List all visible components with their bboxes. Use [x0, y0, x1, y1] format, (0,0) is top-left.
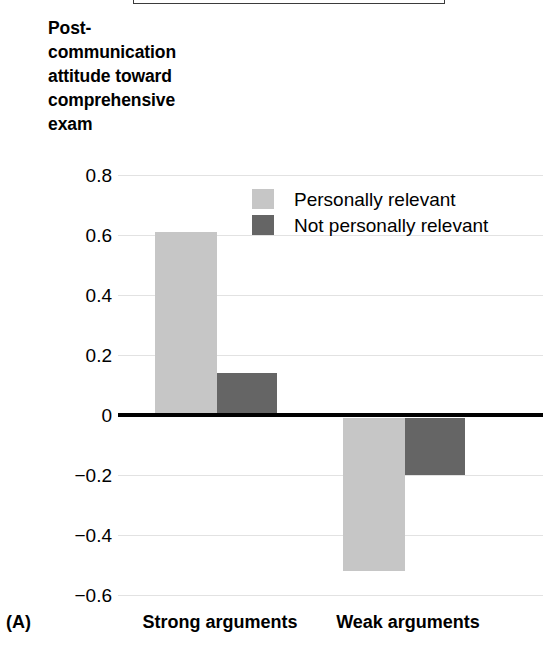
- ytick-label-neg0.4: −0.4: [38, 526, 112, 545]
- legend-item-personally-relevant: Personally relevant: [252, 186, 488, 212]
- legend-label-personally-relevant: Personally relevant: [294, 189, 456, 210]
- ytick-label-0.8: 0.8: [38, 166, 112, 185]
- bar-weak-personally-relevant: [343, 418, 405, 571]
- bar-strong-not-personally-relevant: [217, 373, 277, 415]
- ytick-label-0.2: 0.2: [38, 346, 112, 365]
- chart-legend: Personally relevant Not personally relev…: [252, 186, 488, 238]
- legend-swatch-dark-icon: [252, 215, 274, 235]
- legend-swatch-light-icon: [252, 189, 274, 209]
- ytick-label-0.6: 0.6: [38, 226, 112, 245]
- gridline-neg0.6: [118, 595, 543, 596]
- xaxis-label-weak-arguments: Weak arguments: [318, 612, 498, 633]
- ytick-label-0: 0: [38, 406, 112, 425]
- legend-item-not-personally-relevant: Not personally relevant: [252, 212, 488, 238]
- ytick-label-0.4: 0.4: [38, 286, 112, 305]
- ytick-label-neg0.6: −0.6: [38, 586, 112, 605]
- bar-chart-plot-area: 0.8 0.6 0.4 0.2 0 −0.2 −0.4 −0.6 Persona…: [0, 0, 558, 650]
- zero-axis-line: [118, 413, 543, 417]
- gridline-0.8: [118, 175, 543, 176]
- xaxis-label-strong-arguments: Strong arguments: [130, 612, 310, 633]
- panel-label: (A): [6, 612, 31, 633]
- legend-label-not-personally-relevant: Not personally relevant: [294, 215, 488, 236]
- gridline-neg0.2: [118, 475, 543, 476]
- bar-weak-not-personally-relevant: [405, 418, 465, 475]
- bar-strong-personally-relevant: [155, 232, 217, 415]
- gridline-neg0.4: [118, 535, 543, 536]
- ytick-label-neg0.2: −0.2: [38, 466, 112, 485]
